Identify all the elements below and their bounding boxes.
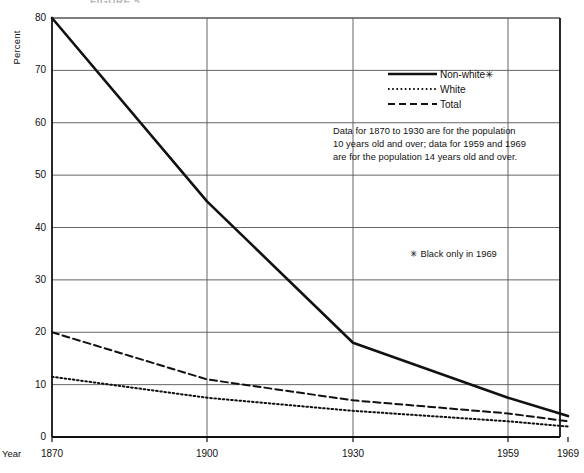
legend-label-white: White	[440, 84, 466, 96]
footnote-annotation: ✳ Black only in 1969	[410, 248, 497, 261]
x-tick-1900: 1900	[177, 448, 237, 459]
x-tick-1930: 1930	[323, 448, 383, 459]
legend-label-total: Total	[440, 99, 461, 111]
series-line-2	[52, 332, 568, 421]
data-note-annotation: Data for 1870 to 1930 are for the popula…	[333, 125, 569, 165]
x-tick-1870: 1870	[22, 448, 82, 459]
x-tick-1959: 1959	[478, 448, 538, 459]
legend-line-samples	[388, 74, 437, 104]
year-axis-label: Year	[2, 448, 21, 459]
legend-label-non-white: Non-white✳	[440, 69, 493, 81]
x-tick-1969: 1969	[538, 448, 584, 459]
